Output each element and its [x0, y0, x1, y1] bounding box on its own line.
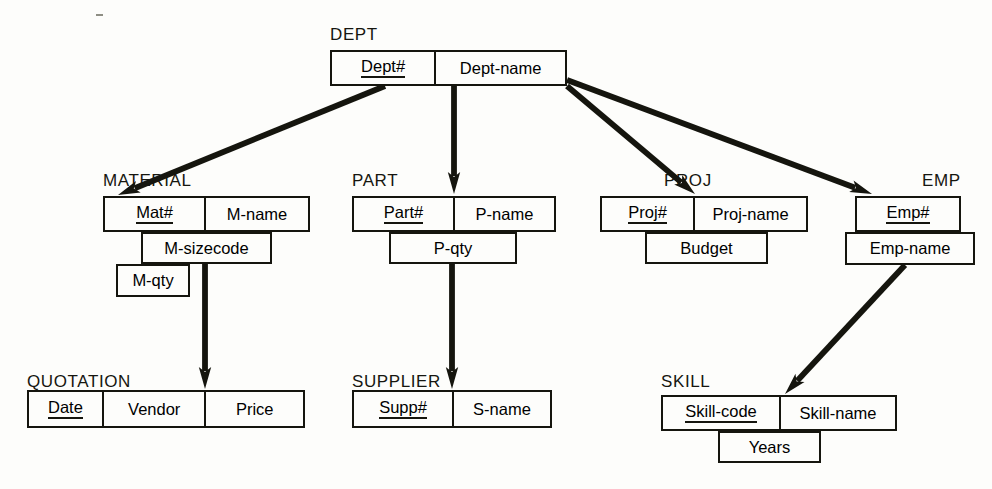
attribute-material-m-qty[interactable]: M-qty: [118, 266, 188, 295]
attribute-label: Price: [236, 400, 274, 419]
arrow-dept-to-emp: [567, 80, 872, 194]
entity-title-material: MATERIAL: [103, 172, 192, 189]
attribute-dept-dept[interactable]: Dept#: [332, 52, 434, 84]
attribute-row-proj-1: Budget: [645, 232, 768, 264]
attribute-label: M-qty: [132, 271, 173, 290]
attribute-label: Mat#: [136, 204, 173, 224]
attribute-row-proj-0: Proj#Proj-name: [600, 196, 808, 232]
attribute-row-dept-0: Dept#Dept-name: [330, 50, 567, 86]
attribute-row-part-1: P-qty: [389, 232, 517, 264]
attribute-label: Part#: [384, 204, 423, 224]
attribute-label: Proj#: [628, 204, 667, 224]
attribute-quotation-price[interactable]: Price: [204, 392, 303, 426]
entity-title-quotation: QUOTATION: [27, 373, 131, 390]
attribute-emp-emp-name[interactable]: Emp-name: [847, 234, 973, 263]
attribute-label: M-name: [227, 205, 288, 224]
arrow-emp-to-skill: [785, 265, 905, 394]
attribute-row-material-2: M-qty: [116, 264, 190, 297]
attribute-part-p-name[interactable]: P-name: [453, 198, 554, 230]
attribute-skill-skill-name[interactable]: Skill-name: [779, 397, 895, 429]
attribute-label: P-qty: [434, 239, 473, 258]
attribute-quotation-vendor[interactable]: Vendor: [102, 392, 205, 426]
entity-title-dept: DEPT: [330, 26, 378, 43]
attribute-quotation-date[interactable]: Date: [29, 392, 102, 426]
attribute-dept-dept-name[interactable]: Dept-name: [434, 52, 565, 84]
attribute-row-part-0: Part#P-name: [352, 196, 556, 232]
entity-title-part: PART: [352, 172, 398, 189]
arrow-dept-to-part: [448, 86, 460, 194]
attribute-skill-skill-code[interactable]: Skill-code: [663, 397, 779, 429]
attribute-part-part[interactable]: Part#: [354, 198, 453, 230]
attribute-label: Emp-name: [870, 239, 951, 258]
attribute-label: Date: [48, 399, 83, 419]
attribute-label: Years: [749, 438, 791, 457]
attribute-row-material-1: M-sizecode: [141, 232, 272, 264]
entity-title-proj: PROJ: [664, 172, 712, 189]
attribute-supplier-s-name[interactable]: S-name: [452, 392, 550, 426]
attribute-row-emp-1: Emp-name: [845, 232, 975, 265]
attribute-part-p-qty[interactable]: P-qty: [391, 234, 515, 262]
scan-speck: [96, 14, 103, 16]
attribute-label: Emp#: [886, 204, 929, 224]
attribute-row-material-0: Mat#M-name: [103, 196, 310, 232]
attribute-material-mat[interactable]: Mat#: [105, 198, 204, 230]
attribute-label: Dept#: [361, 58, 405, 78]
attribute-material-m-sizecode[interactable]: M-sizecode: [143, 234, 270, 262]
attribute-row-emp-0: Emp#: [855, 196, 961, 232]
attribute-label: S-name: [473, 400, 531, 419]
entity-title-skill: SKILL: [661, 373, 710, 390]
schema-diagram-canvas: DEPTDept#Dept-nameMATERIALMat#M-nameM-si…: [0, 0, 992, 489]
attribute-label: M-sizecode: [164, 239, 248, 258]
attribute-label: Skill-code: [685, 403, 757, 423]
attribute-skill-years[interactable]: Years: [720, 433, 819, 461]
attribute-row-skill-0: Skill-codeSkill-name: [661, 395, 897, 431]
attribute-material-m-name[interactable]: M-name: [204, 198, 308, 230]
attribute-row-quotation-0: DateVendorPrice: [27, 390, 305, 428]
attribute-row-skill-1: Years: [718, 431, 821, 463]
attribute-label: Supp#: [379, 399, 427, 419]
attribute-proj-proj-name[interactable]: Proj-name: [693, 198, 806, 230]
entity-title-emp: EMP: [922, 172, 961, 189]
attribute-label: P-name: [476, 205, 534, 224]
attribute-proj-proj[interactable]: Proj#: [602, 198, 693, 230]
attribute-row-supplier-0: Supp#S-name: [352, 390, 552, 428]
attribute-proj-budget[interactable]: Budget: [647, 234, 766, 262]
attribute-label: Budget: [680, 239, 732, 258]
entity-title-supplier: SUPPLIER: [352, 373, 441, 390]
attribute-label: Dept-name: [460, 59, 542, 78]
attribute-emp-emp[interactable]: Emp#: [857, 198, 959, 230]
attribute-label: Proj-name: [713, 205, 789, 224]
attribute-label: Skill-name: [799, 404, 876, 423]
attribute-label: Vendor: [128, 400, 180, 419]
attribute-supplier-supp[interactable]: Supp#: [354, 392, 452, 426]
